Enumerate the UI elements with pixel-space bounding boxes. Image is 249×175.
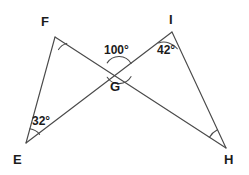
point-label-I: I (169, 13, 173, 26)
angle-label-E: 32° (32, 115, 50, 127)
point-label-H: H (224, 153, 233, 166)
point-label-E: E (13, 153, 22, 166)
point-label-F: F (41, 15, 49, 28)
angle-arc-G-upper (107, 56, 131, 63)
angle-label-G: 100° (104, 44, 129, 56)
diagram-drawing (0, 0, 249, 175)
angle-arc-H (209, 130, 217, 138)
point-label-G: G (110, 80, 120, 93)
geometry-diagram-canvas: F I G E H 100° 42° 32° (0, 0, 249, 175)
angle-label-I: 42° (157, 44, 175, 56)
